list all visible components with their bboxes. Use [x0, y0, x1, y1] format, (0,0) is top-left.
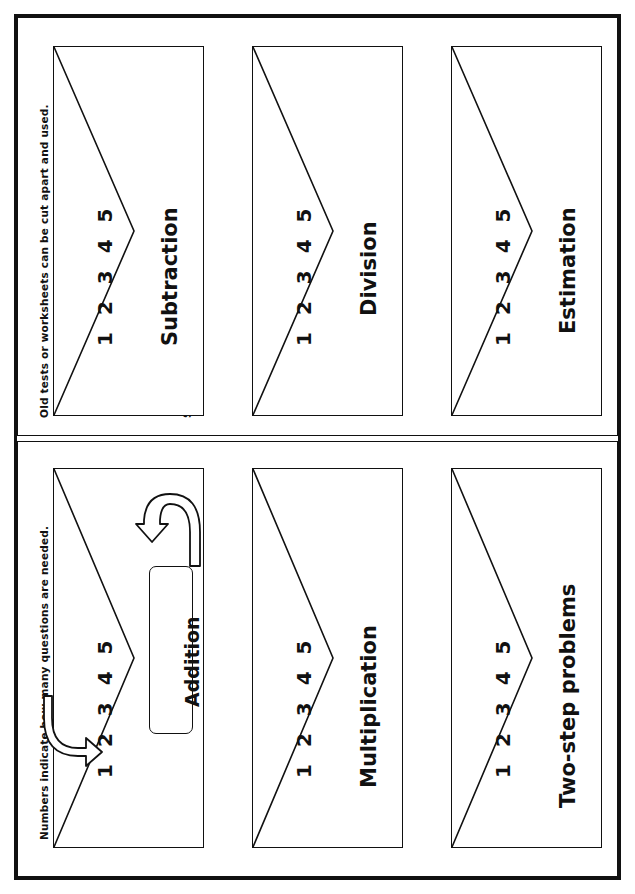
- envelope-division[interactable]: 1 2 3 4 5 Division: [252, 46, 403, 416]
- folder-label-text: Addition: [181, 616, 203, 707]
- envelope-estimation[interactable]: 1 2 3 4 5 Estimation: [451, 46, 602, 416]
- envelope-title: Two-step problems: [556, 584, 580, 808]
- hook-arrow-lower-left-icon: [38, 692, 108, 772]
- upper-page-panel: Old tests or worksheets can be cut apart…: [17, 17, 618, 436]
- envelope-numbers: 1 2 3 4 5: [292, 636, 316, 778]
- caption-outer-edge-top: Old tests or worksheets can be cut apart…: [38, 38, 50, 418]
- envelope-title: Subtraction: [158, 207, 182, 346]
- envelope-numbers: 1 2 3 4 5: [491, 204, 515, 346]
- folder-label-box[interactable]: Addition: [149, 566, 193, 734]
- envelope-title: Division: [357, 221, 381, 316]
- envelope-two-step-problems[interactable]: 1 2 3 4 5 Two-step problems: [451, 468, 602, 848]
- envelope-numbers: 1 2 3 4 5: [292, 204, 316, 346]
- envelope-title: Estimation: [556, 207, 580, 334]
- caption-outer-edge-bottom: Numbers indicate how many questions are …: [38, 460, 50, 840]
- lower-page-panel: Numbers indicate how many questions are …: [17, 441, 618, 877]
- hook-arrow-upper-right-icon: [138, 480, 218, 570]
- envelope-numbers: 1 2 3 4 5: [491, 636, 515, 778]
- envelope-subtraction[interactable]: 1 2 3 4 5 Subtraction: [53, 46, 204, 416]
- diagram-page: Old tests or worksheets can be cut apart…: [0, 0, 635, 894]
- envelope-title: Multiplication: [357, 625, 381, 788]
- envelope-numbers: 1 2 3 4 5: [93, 204, 117, 346]
- envelope-multiplication[interactable]: 1 2 3 4 5 Multiplication: [252, 468, 403, 848]
